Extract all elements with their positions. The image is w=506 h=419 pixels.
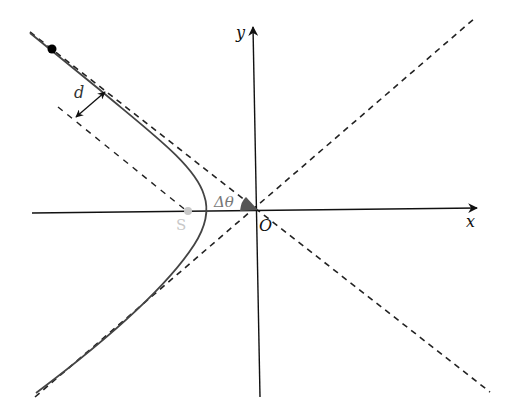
offset-dashed-line <box>58 107 188 212</box>
y-axis-label: y <box>235 23 246 42</box>
angle-wedge <box>240 197 258 211</box>
particle-dot <box>48 45 57 54</box>
origin-label: O <box>259 216 272 235</box>
point-s-dot <box>184 207 192 215</box>
angle-label: Δθ <box>213 193 234 211</box>
hyperbola-diagram: y x O d S Δθ <box>0 0 506 419</box>
impact-parameter-label: d <box>74 83 84 102</box>
point-s-label: S <box>176 216 186 234</box>
x-axis-label: x <box>466 212 475 231</box>
